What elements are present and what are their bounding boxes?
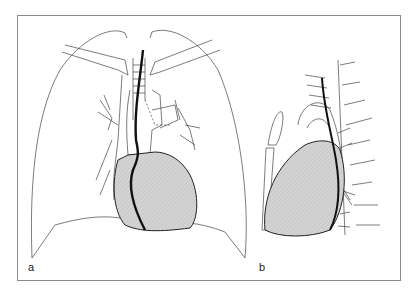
panel-label-b: b <box>259 261 265 273</box>
heart-lateral <box>265 141 345 236</box>
heart-frontal <box>114 152 197 231</box>
panel-label-a: a <box>28 261 34 273</box>
anatomy-illustration <box>0 0 418 294</box>
